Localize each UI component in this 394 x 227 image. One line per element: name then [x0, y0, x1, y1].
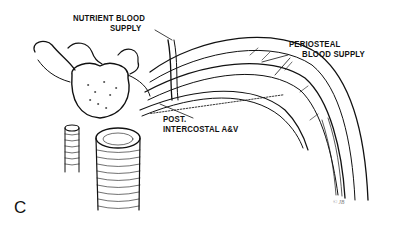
panel-letter: C: [14, 198, 26, 218]
label-line: SUPPLY: [73, 23, 145, 33]
periosteal-blood-supply-label: PERIOSTEAL BLOOD SUPPLY: [289, 39, 365, 59]
label-line: INTERCOSTAL A&V: [163, 124, 238, 134]
label-line: BLOOD SUPPLY: [289, 49, 365, 59]
rib-blood-supply-illustration: NUTRIENT BLOOD SUPPLY PERIOSTEAL BLOOD S…: [0, 0, 394, 227]
posterior-intercostal-label: POST. INTERCOSTAL A&V: [163, 114, 238, 134]
nutrient-blood-supply-label: NUTRIENT BLOOD SUPPLY: [73, 13, 145, 33]
artist-signature: © JB: [333, 199, 344, 205]
